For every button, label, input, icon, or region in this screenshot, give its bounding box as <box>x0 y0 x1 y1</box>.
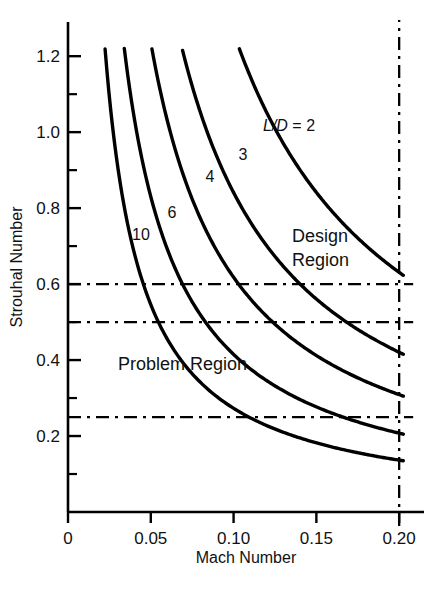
curve-ld-4 <box>152 49 403 396</box>
axes-group <box>68 22 424 512</box>
strouhal-mach-plot: 0.20.40.60.81.01.2 00.050.100.150.20 Mac… <box>0 0 436 590</box>
y-axis-title: Strouhal Number <box>8 206 25 328</box>
x-tick-label: 0.10 <box>217 529 250 548</box>
curve-label-ld10: 10 <box>132 226 150 243</box>
y-tick-label: 1.0 <box>36 123 60 142</box>
x-tick-label: 0.15 <box>300 529 333 548</box>
problem-region-label: Problem Region <box>118 354 247 374</box>
curve-label-ld2-suffix: = 2 <box>288 117 315 134</box>
y-tick-label: 0.2 <box>36 427 60 446</box>
y-tick-label: 0.6 <box>36 275 60 294</box>
y-axis-tick-labels: 0.20.40.60.81.01.2 <box>36 47 60 446</box>
curve-ld-10 <box>105 49 403 461</box>
data-curves-group <box>105 48 403 460</box>
curve-label-ld3: 3 <box>239 146 248 163</box>
design-region-label-line1: Design <box>292 226 348 246</box>
x-axis-tick-labels: 00.050.100.150.20 <box>63 529 415 548</box>
x-tick-label: 0.20 <box>383 529 416 548</box>
curve-ld-3 <box>183 50 404 354</box>
curve-label-ld6: 6 <box>168 204 177 221</box>
y-tick-label: 0.4 <box>36 351 60 370</box>
curve-label-ld2: L/D = 2 <box>263 117 315 134</box>
curve-label-ld2-prefix: L/D <box>263 117 288 134</box>
y-tick-label: 0.8 <box>36 199 60 218</box>
chart-figure: 0.20.40.60.81.01.2 00.050.100.150.20 Mac… <box>0 0 436 590</box>
region-annotations-group: Design Region Problem Region <box>118 226 349 374</box>
y-tick-label: 1.2 <box>36 47 60 66</box>
curve-label-ld4: 4 <box>206 168 215 185</box>
x-tick-label: 0 <box>63 529 72 548</box>
x-axis-title: Mach Number <box>196 549 297 566</box>
reference-lines-group <box>68 20 413 526</box>
y-axis-ticks <box>68 56 81 474</box>
design-region-label-line2: Region <box>292 250 349 270</box>
x-axis-ticks <box>68 512 399 523</box>
x-tick-label: 0.05 <box>134 529 167 548</box>
